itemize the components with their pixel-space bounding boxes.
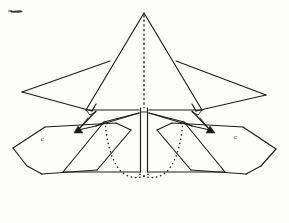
left-wing-marker-c-label: c [41,135,44,143]
right-wing-marker-c: c [234,133,237,141]
aircraft-planform-drawing: c c [0,0,289,223]
figure-canvas: c c [0,0,289,223]
left-wing-marker-c: c [41,135,44,143]
right-wing-marker-c-label: c [234,133,237,141]
